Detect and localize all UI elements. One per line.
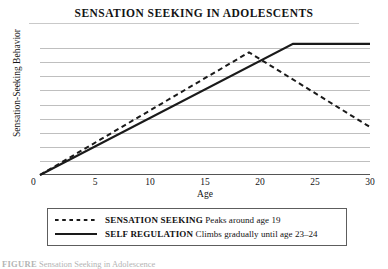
figure-caption: FIGURE Sensation Seeking in Adolescence (2, 259, 382, 269)
legend-item-name: SELF REGULATION (105, 229, 193, 239)
figure-caption-text: Sensation Seeking in Adolescence (39, 259, 155, 269)
plot-area (40, 34, 370, 175)
series-lines (40, 34, 370, 175)
title-divider (29, 23, 359, 24)
legend-item-label: SELF REGULATION Climbs gradually until a… (105, 229, 318, 239)
figure-caption-label: FIGURE (2, 259, 37, 269)
legend-swatch-solid-icon (54, 229, 98, 239)
legend-swatch-dashed-icon (54, 215, 98, 225)
x-tick-label: 10 (145, 177, 155, 187)
x-axis-title: Age (40, 189, 370, 199)
figure-title: SENSATION SEEKING IN ADOLESCENTS (0, 0, 388, 19)
legend-item: SENSATION SEEKING Peaks around age 19 (54, 213, 340, 227)
legend-item-name: SENSATION SEEKING (105, 215, 203, 225)
y-axis-title: Sensation-Seeking Behavior (12, 18, 22, 148)
y-axis-origin-label: 0 (31, 177, 36, 187)
x-tick-label: 15 (200, 177, 210, 187)
x-tick-label: 30 (365, 177, 375, 187)
legend-item: SELF REGULATION Climbs gradually until a… (54, 227, 340, 241)
series-line-self-regulation (40, 44, 370, 175)
legend-item-label: SENSATION SEEKING Peaks around age 19 (105, 215, 281, 225)
series-line-sensation-seeking (40, 52, 370, 175)
x-tick-label: 25 (310, 177, 320, 187)
x-tick-label: 20 (255, 177, 265, 187)
chart-legend: SENSATION SEEKING Peaks around age 19SEL… (47, 208, 347, 246)
x-tick-label: 5 (93, 177, 98, 187)
chart-area: Sensation-Seeking Behavior 0 05101520253… (0, 30, 388, 200)
